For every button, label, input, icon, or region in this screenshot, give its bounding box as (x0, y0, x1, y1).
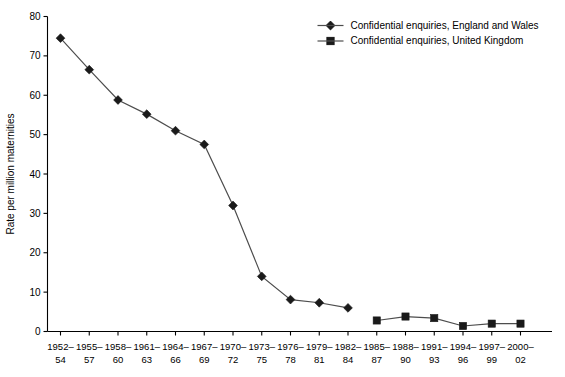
y-tick-label: 50 (29, 129, 41, 140)
x-tick-label-top: 1970– (220, 341, 247, 352)
x-tick-label-bottom: 63 (141, 354, 152, 365)
data-point-square (402, 313, 409, 320)
legend-label-1: Confidential enquiries, United Kingdom (351, 35, 524, 46)
data-point-diamond (315, 298, 324, 307)
x-tick-label-bottom: 99 (486, 354, 497, 365)
x-tick-label-top: 1979– (306, 341, 333, 352)
data-point-diamond (344, 303, 353, 312)
x-tick-label-bottom: 66 (170, 354, 181, 365)
y-tick-label: 30 (29, 208, 41, 219)
x-tick-label-top: 1958– (105, 341, 132, 352)
x-tick-label-bottom: 54 (55, 354, 66, 365)
data-point-diamond (171, 126, 180, 135)
data-point-diamond (200, 140, 209, 149)
y-tick-label: 0 (35, 326, 41, 337)
x-tick-label-top: 1955– (76, 341, 103, 352)
x-tick-label-bottom: 60 (113, 354, 124, 365)
x-tick-label-bottom: 02 (515, 354, 526, 365)
y-tick-label: 60 (29, 90, 41, 101)
x-tick-label-top: 1991– (421, 341, 448, 352)
x-tick-label-bottom: 81 (314, 354, 325, 365)
x-tick-label-bottom: 75 (256, 354, 267, 365)
x-tick-label-bottom: 90 (400, 354, 411, 365)
y-tick-label: 20 (29, 247, 41, 258)
chart-container: 010203040506070801952–541955–571958–6019… (0, 0, 565, 377)
data-point-square (459, 322, 466, 329)
data-point-square (488, 320, 495, 327)
y-tick-label: 80 (29, 11, 41, 22)
x-tick-label-top: 1967– (191, 341, 218, 352)
series-line-0 (61, 38, 349, 308)
x-tick-label-bottom: 87 (371, 354, 382, 365)
x-tick-label-top: 1997– (479, 341, 506, 352)
x-tick-label-top: 1988– (392, 341, 419, 352)
x-tick-label-top: 1973– (249, 341, 276, 352)
x-tick-label-bottom: 78 (285, 354, 296, 365)
x-tick-label-top: 1961– (134, 341, 161, 352)
y-tick-label: 40 (29, 169, 41, 180)
data-point-square (431, 315, 438, 322)
y-tick-label: 70 (29, 50, 41, 61)
data-point-square (373, 317, 380, 324)
x-tick-label-bottom: 69 (199, 354, 210, 365)
series-line-1 (377, 317, 521, 326)
x-tick-label-bottom: 84 (343, 354, 354, 365)
y-axis-title: Rate per million maternities (5, 113, 16, 234)
x-tick-label-top: 1982– (335, 341, 362, 352)
x-tick-label-top: 1976– (277, 341, 304, 352)
x-tick-label-bottom: 93 (429, 354, 440, 365)
data-point-square (517, 320, 524, 327)
y-tick-label: 10 (29, 287, 41, 298)
x-tick-label-top: 1994– (450, 341, 477, 352)
line-chart: 010203040506070801952–541955–571958–6019… (0, 0, 565, 377)
x-tick-label-top: 1952– (47, 341, 74, 352)
data-point-diamond (142, 110, 151, 119)
data-point-diamond (229, 201, 238, 210)
legend-label-0: Confidential enquiries, England and Wale… (351, 20, 539, 31)
x-tick-label-top: 1985– (364, 341, 391, 352)
x-tick-label-top: 1964– (162, 341, 189, 352)
x-tick-label-top: 2000– (507, 341, 534, 352)
x-tick-label-bottom: 72 (228, 354, 239, 365)
x-tick-label-bottom: 96 (458, 354, 469, 365)
x-tick-label-bottom: 57 (84, 354, 95, 365)
